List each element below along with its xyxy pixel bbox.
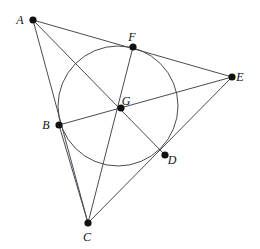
segment-B-E: [59, 77, 232, 125]
point-label-d: D: [167, 153, 177, 167]
vertex-point-f: [129, 43, 136, 50]
vertex-point-b: [55, 121, 62, 128]
geometry-canvas: AFEGBDC: [0, 0, 260, 249]
segment-B-C: [59, 125, 88, 223]
segment-A-D: [33, 20, 165, 155]
point-label-e: E: [235, 70, 244, 84]
point-label-a: A: [15, 13, 24, 27]
vertex-point-c: [84, 219, 91, 226]
point-label-b: B: [42, 118, 50, 132]
vertex-point-e: [228, 73, 235, 80]
segment-F-C: [88, 47, 133, 223]
vertex-point-a: [29, 16, 36, 23]
geometry-figure: AFEGBDC: [0, 0, 260, 249]
point-label-g: G: [122, 94, 131, 108]
point-label-c: C: [83, 230, 92, 244]
point-label-f: F: [127, 30, 136, 44]
